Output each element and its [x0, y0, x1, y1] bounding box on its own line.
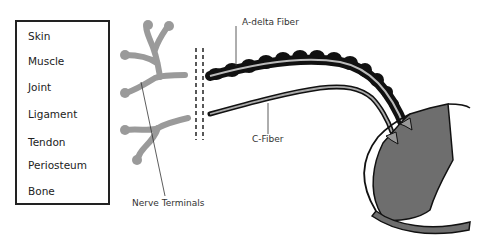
- a-delta-fiber-label: A-delta Fiber: [242, 17, 299, 27]
- nociceptor-diagram: Nerve Terminals A-delta Fiber C-Fiber: [0, 0, 488, 235]
- c-fiber: [210, 87, 392, 132]
- nerve-terminals-label: Nerve Terminals: [132, 198, 205, 208]
- upper-nerve-terminal: [125, 25, 185, 93]
- spinal-cord-section: [362, 104, 488, 234]
- c-fiber-label: C-Fiber: [252, 134, 284, 144]
- nerve-terminals-pointer: [141, 82, 165, 196]
